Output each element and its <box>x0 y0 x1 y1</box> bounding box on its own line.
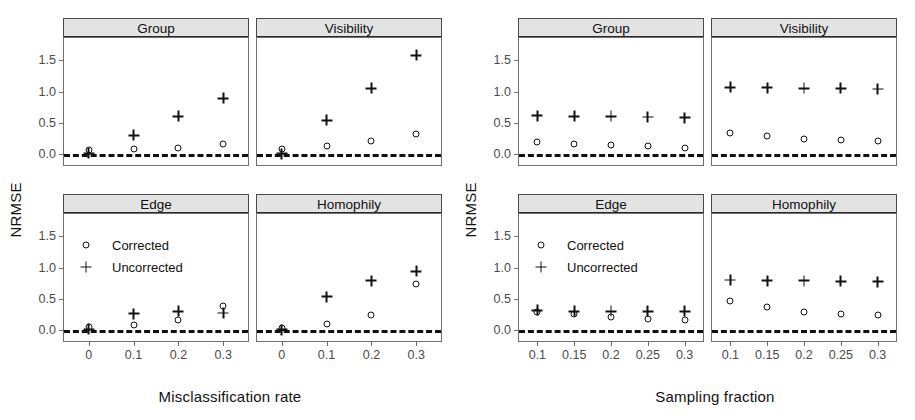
data-point-plus <box>532 305 543 316</box>
x-tick-label: 0.2 <box>170 348 187 362</box>
x-tick-label: 0.3 <box>408 348 425 362</box>
plot-area-group: 0.00.51.01.5 <box>518 37 704 166</box>
panel-title: Group <box>519 20 703 35</box>
x-tick-label: 0.25 <box>829 348 853 362</box>
x-tick <box>223 341 224 346</box>
data-point-circle <box>413 281 420 288</box>
x-tick-label: 0.1 <box>318 348 335 362</box>
panel-strip-homophily: Homophily <box>256 194 442 214</box>
data-point-plus <box>835 276 846 287</box>
plot-area-homophily: 00.10.20.3 <box>256 213 442 342</box>
data-point-plus <box>276 324 287 335</box>
plot-area-visibility <box>711 37 897 166</box>
y-tick-label: 0.5 <box>39 116 56 130</box>
legend-label: Corrected <box>567 238 624 253</box>
legend-marker-circle-icon <box>83 242 90 249</box>
panel-title: Edge <box>64 196 248 211</box>
data-point-circle <box>644 316 651 323</box>
reference-line <box>519 330 703 333</box>
data-point-plus <box>642 112 653 123</box>
data-point-circle <box>368 138 375 145</box>
plot-area-edge: 0.00.51.01.50.10.150.20.250.3CorrectedUn… <box>518 213 704 342</box>
y-tick <box>59 268 64 269</box>
x-tick-label: 0 <box>278 348 285 362</box>
x-tick <box>574 341 575 346</box>
data-point-circle <box>130 145 137 152</box>
panel-visibility: Visibility <box>711 18 897 166</box>
x-tick-label: 0.1 <box>722 348 739 362</box>
panel-strip-group: Group <box>518 18 704 38</box>
data-point-circle <box>801 135 808 142</box>
legend-label: Uncorrected <box>567 260 638 275</box>
x-tick-label: 0.1 <box>529 348 546 362</box>
y-tick <box>514 123 519 124</box>
y-tick <box>514 268 519 269</box>
data-point-plus <box>725 82 736 93</box>
x-tick <box>282 341 283 346</box>
x-tick-label: 0.2 <box>795 348 812 362</box>
x-tick <box>878 341 879 346</box>
data-point-circle <box>837 311 844 318</box>
x-tick-label: 0.2 <box>602 348 619 362</box>
panel-homophily: Homophily00.10.20.3 <box>256 194 442 342</box>
y-tick-label: 1.0 <box>39 261 56 275</box>
panel-visibility: Visibility <box>256 18 442 166</box>
data-point-plus <box>872 84 883 95</box>
data-point-circle <box>571 140 578 147</box>
data-point-plus <box>218 93 229 104</box>
data-point-plus <box>835 83 846 94</box>
data-point-circle <box>644 143 651 150</box>
reference-line <box>712 154 896 157</box>
x-tick-label: 0.15 <box>755 348 779 362</box>
y-tick <box>59 60 64 61</box>
legend-marker-plus-icon <box>536 262 547 273</box>
data-point-plus <box>128 130 139 141</box>
data-point-circle <box>368 311 375 318</box>
y-tick <box>514 236 519 237</box>
x-tick <box>89 341 90 346</box>
x-tick <box>416 341 417 346</box>
data-point-plus <box>411 50 422 61</box>
x-tick-label: 0.15 <box>562 348 586 362</box>
x-tick-label: 0.3 <box>215 348 232 362</box>
data-point-circle <box>130 322 137 329</box>
y-tick-label: 0.0 <box>494 323 511 337</box>
y-tick-label: 1.0 <box>494 85 511 99</box>
data-point-plus <box>642 306 653 317</box>
plot-area-edge: 0.00.51.01.500.10.20.3CorrectedUncorrect… <box>63 213 249 342</box>
panel-group: Group0.00.51.01.5 <box>518 18 704 166</box>
x-tick <box>134 341 135 346</box>
y-tick-label: 1.5 <box>494 229 511 243</box>
data-point-plus <box>173 111 184 122</box>
data-point-plus <box>218 307 229 318</box>
x-axis-label-left: Misclassification rate <box>0 388 460 405</box>
panel-strip-visibility: Visibility <box>711 18 897 38</box>
data-point-plus <box>173 306 184 317</box>
y-tick-label: 1.5 <box>39 53 56 67</box>
y-tick-label: 0.0 <box>494 147 511 161</box>
data-point-circle <box>801 308 808 315</box>
data-point-circle <box>534 138 541 145</box>
chart-sampling: NRMSE Sampling fraction Group0.00.51.01.… <box>455 0 915 420</box>
x-tick-label: 0.1 <box>125 348 142 362</box>
x-tick <box>611 341 612 346</box>
x-tick <box>841 341 842 346</box>
y-tick-label: 0.5 <box>39 292 56 306</box>
x-tick <box>767 341 768 346</box>
reference-line <box>712 330 896 333</box>
data-point-plus <box>366 83 377 94</box>
x-tick <box>804 341 805 346</box>
data-point-circle <box>764 133 771 140</box>
y-tick-label: 1.5 <box>39 229 56 243</box>
x-tick <box>730 341 731 346</box>
x-tick <box>648 341 649 346</box>
y-tick-label: 1.5 <box>494 53 511 67</box>
x-tick <box>685 341 686 346</box>
data-point-circle <box>874 312 881 319</box>
panel-strip-homophily: Homophily <box>711 194 897 214</box>
data-point-circle <box>175 144 182 151</box>
data-point-plus <box>366 275 377 286</box>
panel-title: Group <box>64 20 248 35</box>
data-point-plus <box>321 291 332 302</box>
data-point-plus <box>679 112 690 123</box>
